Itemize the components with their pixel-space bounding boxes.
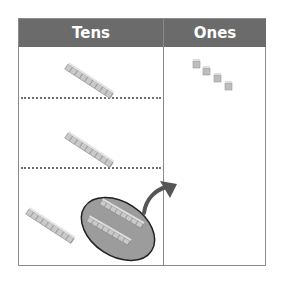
tens-rod-icon xyxy=(65,62,115,98)
tens-rod-icon xyxy=(26,207,76,243)
unit-cube-icon xyxy=(193,59,200,68)
curved-arrow-icon xyxy=(144,181,177,213)
unit-cube-icon xyxy=(203,66,210,75)
unit-cube-icon xyxy=(225,81,232,90)
unit-cube-icon xyxy=(214,73,221,82)
tens-rod-icon xyxy=(65,131,115,167)
ones-cubes xyxy=(193,59,232,90)
blocks-illustration xyxy=(0,0,284,284)
